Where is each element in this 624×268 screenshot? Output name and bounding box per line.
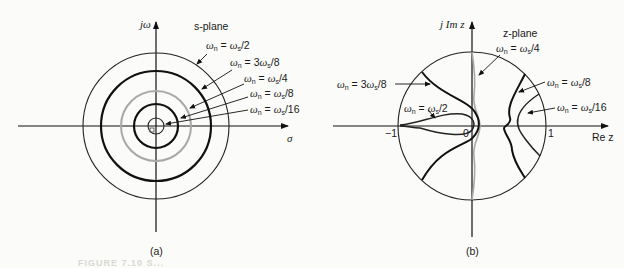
leader-z-ws-16 — [528, 108, 555, 113]
z-label-ws-2: ωn = ωs/2 — [404, 102, 448, 115]
figure-caption: FIGURE 7.10 S... — [78, 258, 164, 268]
label-ws-4: ωn = ωs/4 — [244, 72, 288, 85]
figure-root: jω σ s-plane ωn = ωs/2 ωn = 3ωs/8 ωn = ω… — [0, 0, 624, 268]
tick-neg-one: −1 — [385, 127, 397, 139]
caption-b: (b) — [466, 245, 479, 257]
caption-a: (a) — [150, 245, 163, 257]
z-plane-panel: j Im z Re z z-plane −1 0 1 ωn = ωs/4 ωn … — [333, 18, 614, 257]
z-plane-label: z-plane — [503, 27, 538, 39]
leader-ws-4 — [190, 84, 244, 108]
leader-z-ws-4 — [479, 55, 500, 75]
tick-zero: 0 — [463, 127, 469, 139]
leader-ws-16 — [166, 110, 248, 124]
curve-ws-16 — [517, 94, 540, 156]
label-ws-16: ωn = ωs/16 — [250, 103, 300, 116]
sigma-axis-label: σ — [287, 132, 293, 144]
im-z-axis-label: j Im z — [438, 18, 465, 30]
s-plane-panel: jω σ s-plane ωn = ωs/2 ωn = 3ωs/8 ωn = ω… — [18, 18, 300, 257]
figure-canvas: jω σ s-plane ωn = ωs/2 ωn = 3ωs/8 ωn = ω… — [0, 0, 624, 268]
s-plane-label: s-plane — [194, 20, 229, 32]
label-ws-8: ωn = ωs/8 — [250, 87, 294, 100]
label-3ws-8: ωn = 3ωs/8 — [230, 56, 280, 69]
tick-one: 1 — [548, 127, 554, 139]
z-label-3ws-8: ωn = 3ωs/8 — [337, 78, 387, 91]
z-label-ws-4: ωn = ωs/4 — [496, 42, 540, 55]
z-label-ws-8: ωn = ωs/8 — [547, 76, 591, 89]
jw-axis-label: jω — [138, 18, 151, 30]
z-label-ws-16: ωn = ωs/16 — [557, 101, 607, 114]
leader-ws-2 — [197, 54, 207, 64]
label-ws-2: ωn = ωs/2 — [206, 39, 250, 52]
re-z-axis-label: Re z — [592, 131, 614, 143]
